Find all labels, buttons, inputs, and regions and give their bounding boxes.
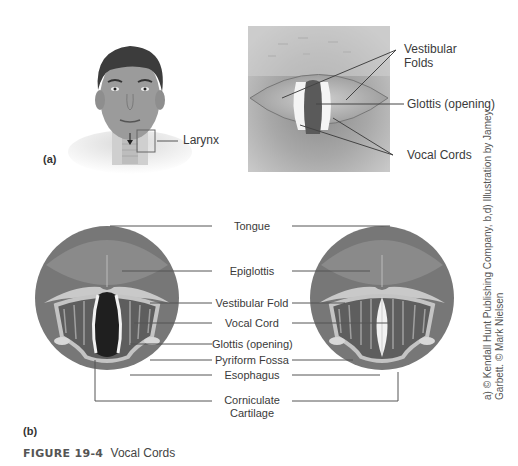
figure-number: FIGURE 19-4 (23, 447, 103, 460)
label-esophagus: Esophagus (214, 369, 290, 381)
credit-line2: Garbett. © Mark Nielsen (494, 110, 506, 400)
credit-line1: a) © Kendall Hunt Publishing Company, b,… (482, 110, 494, 400)
image-credit: a) © Kendall Hunt Publishing Company, b,… (482, 110, 506, 400)
label-tongue: Tongue (214, 220, 290, 232)
label-corniculate-line2: Cartilage (214, 407, 290, 419)
panel-b-letter: (b) (23, 425, 37, 437)
label-glottis-diagram: Glottis (opening) (212, 338, 292, 350)
label-corniculate-line1: Corniculate (214, 394, 290, 406)
label-epiglottis: Epiglottis (214, 265, 290, 277)
label-pyriform-fossa: Pyriform Fossa (212, 354, 292, 366)
figure-caption: FIGURE 19-4 Vocal Cords (23, 446, 175, 460)
label-vocal-cord: Vocal Cord (214, 317, 290, 329)
figure-title: Vocal Cords (111, 446, 176, 460)
label-vestibular-fold: Vestibular Fold (212, 297, 292, 309)
